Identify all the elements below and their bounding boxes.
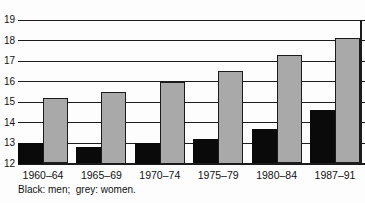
y-tick-label-19: 19 <box>0 15 15 25</box>
bar-women-1965-69 <box>101 92 126 164</box>
y-tick-label-16: 16 <box>0 77 15 87</box>
y-tick-label-12: 12 <box>0 159 15 169</box>
x-tick-label-1970-74: 1970–74 <box>131 169 189 181</box>
bar-women-1960-64 <box>43 98 68 164</box>
x-tick-label-1965-69: 1965–69 <box>72 169 130 181</box>
bar-men-1965-69 <box>76 147 101 163</box>
y-tick-label-14: 14 <box>0 118 15 128</box>
y-tick-label-15: 15 <box>0 97 15 107</box>
legend-caption: Black: men; grey: women. <box>18 184 136 195</box>
bar-women-1987-91 <box>335 38 360 163</box>
bar-women-1970-74 <box>160 82 185 164</box>
right-axis-line <box>360 20 362 164</box>
gridline-y19 <box>18 20 365 21</box>
bar-chart: 1213141516171819 1960–641965–691970–7419… <box>0 0 365 203</box>
bar-men-1975-79 <box>193 139 218 164</box>
bar-men-1960-64 <box>18 143 43 164</box>
y-tick-label-17: 17 <box>0 56 15 66</box>
bar-women-1975-79 <box>218 71 243 163</box>
gridline-y16 <box>18 81 365 82</box>
x-tick-label-1960-64: 1960–64 <box>14 169 72 181</box>
bar-men-1970-74 <box>135 143 160 164</box>
bar-men-1987-91 <box>310 110 335 163</box>
x-tick-label-1987-91: 1987–91 <box>306 169 364 181</box>
bar-women-1980-84 <box>277 55 302 164</box>
x-tick-label-1975-79: 1975–79 <box>189 169 247 181</box>
gridline-y17 <box>18 61 365 62</box>
gridline-y15 <box>18 102 365 103</box>
y-tick-label-18: 18 <box>0 36 15 46</box>
x-tick-label-1980-84: 1980–84 <box>248 169 306 181</box>
gridline-y18 <box>18 40 365 41</box>
bar-men-1980-84 <box>252 129 277 164</box>
y-tick-label-13: 13 <box>0 138 15 148</box>
